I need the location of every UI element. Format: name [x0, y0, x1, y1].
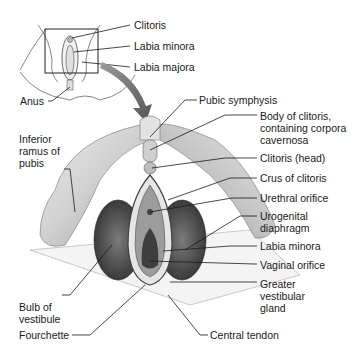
label-inset-labia-majora: Labia majora	[134, 61, 195, 73]
label-urogenital-diaphragm: Urogenital diaphragm	[260, 210, 310, 234]
label-inset-anus: Anus	[20, 95, 44, 107]
label-inset-clitoris: Clitoris	[134, 19, 166, 31]
label-inferior-ramus-of-pubis: Inferior ramus of pubis	[19, 133, 60, 169]
label-central-tendon: Central tendon	[210, 329, 279, 341]
label-vaginal-orifice: Vaginal orifice	[260, 259, 325, 271]
label-inset-labia-minora: Labia minora	[134, 40, 195, 52]
label-pubic-symphysis: Pubic symphysis	[199, 94, 277, 106]
label-labia-minora: Labia minora	[260, 240, 321, 252]
label-clitoris-head: Clitoris (head)	[260, 152, 325, 164]
label-fourchette: Fourchette	[19, 329, 69, 341]
label-urethral-orifice: Urethral orifice	[260, 192, 328, 204]
inset-external-view	[20, 25, 135, 101]
label-greater-vestibular-gland: Greater vestibular gland	[260, 278, 305, 314]
label-crus-of-clitoris: Crus of clitoris	[260, 172, 327, 184]
label-body-of-clitoris: Body of clitoris, containing corpora cav…	[260, 110, 346, 146]
label-bulb-of-vestibule: Bulb of vestibule	[19, 301, 60, 325]
